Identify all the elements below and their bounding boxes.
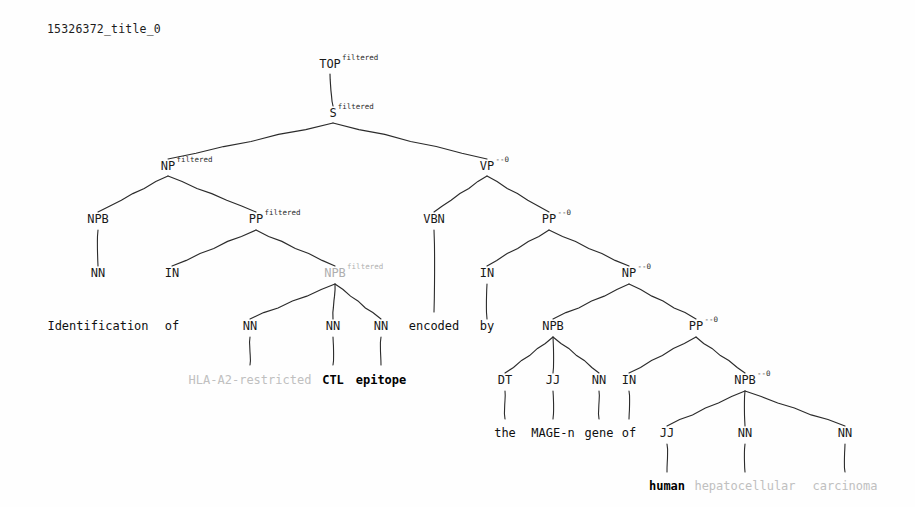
node-annotation: filtered [338, 102, 374, 111]
node-label: PP [249, 212, 263, 226]
node-label: DT [498, 373, 512, 387]
node-label: IN [165, 266, 179, 280]
tree-edges [97, 74, 845, 472]
tree-edge [504, 391, 505, 419]
tree-edge [168, 176, 256, 212]
node-label: NN [592, 373, 606, 387]
node-label: NP [161, 159, 175, 173]
tree-node: NPfiltered [161, 155, 213, 173]
node-label: IN [622, 373, 636, 387]
node-label: NPB [87, 212, 109, 226]
tree-node: NN [326, 319, 340, 333]
tree-node: NN [243, 319, 257, 333]
tree-edge [97, 230, 98, 266]
node-label: NN [738, 426, 752, 440]
node-label: IN [480, 266, 494, 280]
tree-edge [250, 337, 251, 365]
tree-edge [250, 284, 335, 319]
tree-edge [333, 284, 335, 319]
tree-node: JJ [546, 373, 560, 387]
node-label: NPB [734, 373, 756, 387]
tree-edge [598, 391, 599, 419]
leaf-word: carcinoma [812, 479, 877, 493]
leaf-word: of [622, 426, 636, 440]
tree-node: NPB [542, 319, 564, 333]
node-label: VBN [423, 212, 445, 226]
tree-node: VBN [423, 212, 445, 226]
tree-edge [487, 230, 549, 266]
node-annotation: --0 [637, 262, 651, 271]
tree-edge [696, 337, 745, 373]
node-label: NN [374, 319, 388, 333]
tree-node: PPfiltered [249, 208, 301, 226]
tree-node: JJ [660, 426, 674, 440]
tree-leaves: IdentificationofencodedbyHLA-A2-restrict… [47, 319, 877, 493]
tree-node: NN [374, 319, 388, 333]
leaf-word: CTL [322, 373, 344, 387]
tree-edge [486, 284, 487, 319]
tree-node: DT [498, 373, 512, 387]
scanned-page: 15326372_title_0 TOPfilteredSfilteredNPf… [0, 0, 915, 507]
tree-edge [98, 176, 168, 212]
leaf-word: hepatocellular [694, 479, 795, 493]
node-annotation: --0 [557, 208, 571, 217]
node-label: S [329, 106, 336, 120]
tree-edge [487, 176, 549, 212]
tree-edge [667, 391, 745, 426]
node-label: PP [542, 212, 556, 226]
tree-edge [553, 337, 554, 373]
node-label: NPB [324, 266, 346, 280]
leaf-word: by [480, 319, 494, 333]
tree-edge [844, 444, 845, 472]
node-annotation: filtered [264, 208, 300, 217]
node-annotation: --0 [757, 369, 771, 378]
leaf-word: human [649, 479, 685, 493]
tree-edge [629, 284, 696, 319]
tree-edge [168, 123, 333, 159]
tree-edge [629, 391, 630, 419]
node-label: NN [91, 266, 105, 280]
tree-edge [667, 444, 668, 472]
node-annotation: filtered [342, 53, 378, 62]
tree-node: NN [838, 426, 852, 440]
tree-node: VP--0 [480, 155, 510, 173]
node-label: JJ [660, 426, 674, 440]
node-label: NN [838, 426, 852, 440]
leaf-word: MAGE-n [531, 426, 574, 440]
tree-edge [553, 284, 629, 319]
tree-node: NN [91, 266, 105, 280]
tree-edge [629, 337, 696, 373]
leaf-word: Identification [47, 319, 148, 333]
tree-edge [434, 230, 435, 312]
tree-node: NPB--0 [734, 369, 771, 387]
node-annotation: --0 [495, 155, 509, 164]
tree-node: IN [480, 266, 494, 280]
node-label: TOP [319, 57, 341, 71]
tree-edge [549, 230, 629, 266]
node-label: JJ [546, 373, 560, 387]
tree-edge [744, 444, 745, 472]
node-label: NPB [542, 319, 564, 333]
node-label: NN [326, 319, 340, 333]
tree-edge [256, 230, 335, 266]
tree-edge [744, 391, 745, 426]
leaf-word: epitope [356, 373, 407, 387]
tree-edge [172, 230, 256, 266]
tree-edge [335, 284, 381, 319]
tree-edge [333, 337, 334, 365]
tree-node: Sfiltered [329, 102, 373, 120]
tree-edge [333, 123, 487, 159]
tree-edge [553, 391, 554, 419]
leaf-word: the [494, 426, 516, 440]
tree-edge [434, 176, 487, 212]
tree-node: NN [592, 373, 606, 387]
tree-node: NN [738, 426, 752, 440]
node-label: VP [480, 159, 494, 173]
tree-edge [553, 337, 599, 373]
tree-node: TOPfiltered [319, 53, 378, 71]
leaf-word: encoded [409, 319, 460, 333]
leaf-word: HLA-A2-restricted [189, 373, 312, 387]
tree-edge [745, 391, 845, 426]
tree-node: NPB [87, 212, 109, 226]
node-annotation: filtered [176, 155, 212, 164]
